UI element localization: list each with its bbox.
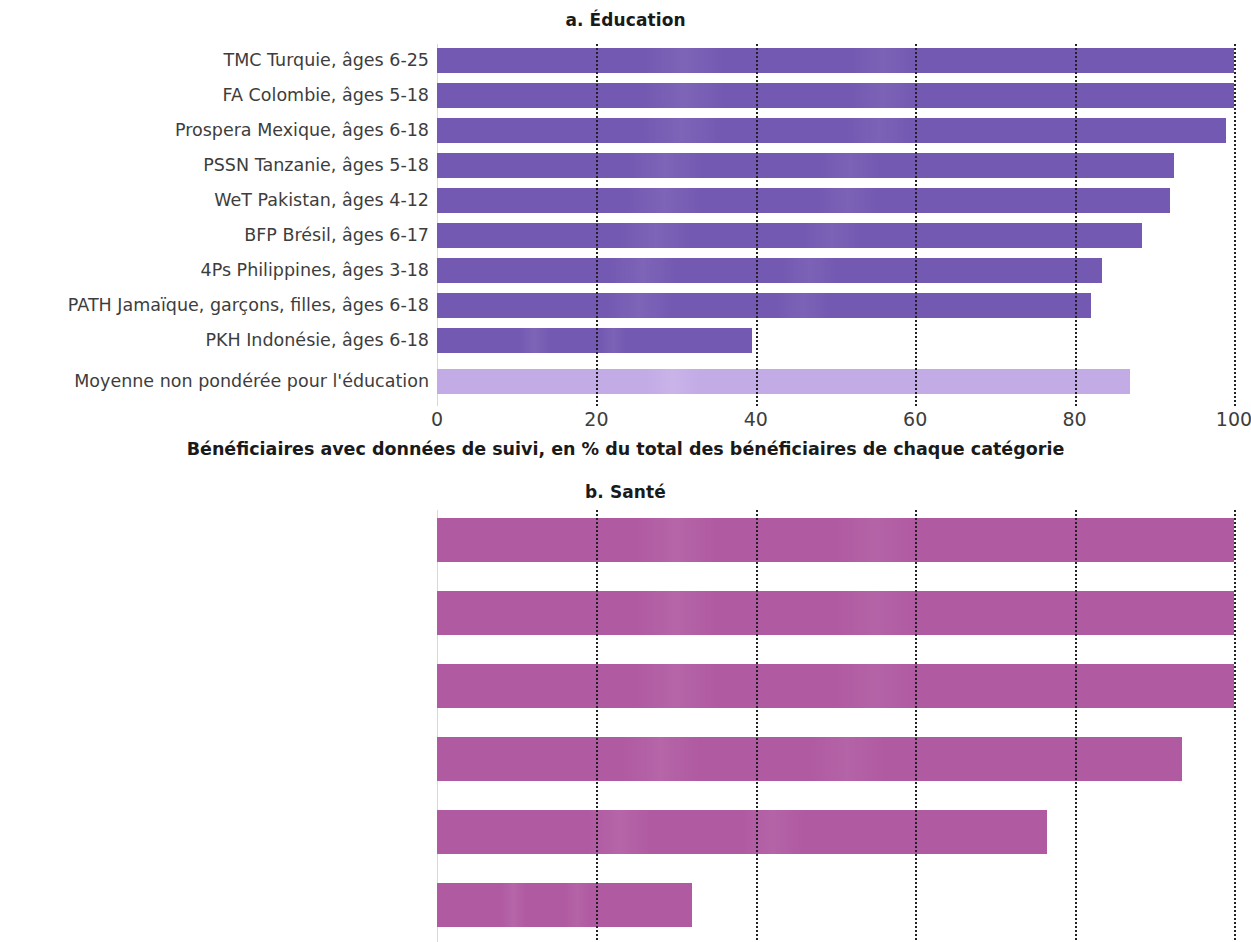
x-tick-label-40: 40 bbox=[721, 410, 791, 429]
bar-row bbox=[437, 328, 1234, 353]
category-label: 4Ps Philippines, âges 3-18 bbox=[0, 262, 429, 280]
bar-row bbox=[437, 258, 1234, 283]
x-tick-label-100: 100 bbox=[1199, 410, 1251, 429]
category-label: TMC Turquie, âges 6-25 bbox=[0, 52, 429, 70]
bar-row bbox=[437, 118, 1234, 143]
category-label: WeT Pakistan, âges 4-12 bbox=[0, 192, 429, 210]
category-label: PKH Indonésie, âges 6-18 bbox=[0, 332, 429, 350]
bar-row bbox=[437, 153, 1234, 178]
bar-6 bbox=[437, 258, 1102, 283]
bar-row bbox=[437, 369, 1234, 394]
bar-1 bbox=[437, 83, 1234, 108]
category-label: Prospera Mexique, âges 6-18 bbox=[0, 122, 429, 140]
figure-beneficiaries-monitoring-data: a. Éducation TMC Turquie, âges 6-25FA Co… bbox=[0, 0, 1251, 942]
bar-4 bbox=[437, 188, 1170, 213]
gridline-20 bbox=[596, 44, 598, 406]
bar-2 bbox=[437, 664, 1234, 708]
bar-1 bbox=[437, 591, 1234, 635]
bar-row bbox=[437, 83, 1234, 108]
gridline-80 bbox=[1075, 510, 1077, 942]
x-tick-label-20: 20 bbox=[561, 410, 631, 429]
category-label: Moyenne non pondérée pour l'éducation bbox=[0, 373, 429, 391]
bar-3 bbox=[437, 737, 1182, 781]
gridline-80 bbox=[1075, 44, 1077, 406]
bar-4 bbox=[437, 810, 1047, 854]
bar-row bbox=[437, 188, 1234, 213]
bar-7 bbox=[437, 293, 1091, 318]
gridline-60 bbox=[915, 510, 917, 942]
bar-average bbox=[437, 369, 1130, 394]
bar-row bbox=[437, 223, 1234, 248]
bar-3 bbox=[437, 153, 1174, 178]
bar-row bbox=[437, 293, 1234, 318]
bar-row bbox=[437, 518, 1234, 562]
bar-0 bbox=[437, 48, 1234, 73]
panel-title-education: a. Éducation bbox=[0, 10, 1251, 30]
bar-2 bbox=[437, 118, 1226, 143]
chart-panel-sante: b. Santé TMC TurquiePATH Jamaïque, femme… bbox=[0, 472, 1251, 942]
category-label: BFP Brésil, âges 6-17 bbox=[0, 227, 429, 245]
bar-row bbox=[437, 883, 1234, 927]
category-label: PATH Jamaïque, garçons, filles, âges 6-1… bbox=[0, 297, 429, 315]
bar-row bbox=[437, 591, 1234, 635]
gridline-60 bbox=[915, 44, 917, 406]
gridline-40 bbox=[756, 44, 758, 406]
gridline-40 bbox=[756, 510, 758, 942]
x-tick-label-60: 60 bbox=[880, 410, 950, 429]
category-label: FA Colombie, âges 5-18 bbox=[0, 87, 429, 105]
plot-area-sante bbox=[437, 510, 1234, 942]
x-axis-title-education: Bénéficiaires avec données de suivi, en … bbox=[0, 440, 1251, 459]
y-axis-line bbox=[437, 510, 438, 942]
bar-row bbox=[437, 48, 1234, 73]
gridline-20 bbox=[596, 510, 598, 942]
x-tick-label-0: 0 bbox=[402, 410, 472, 429]
panel-title-sante: b. Santé bbox=[0, 482, 1251, 502]
bar-8 bbox=[437, 328, 752, 353]
bar-row bbox=[437, 664, 1234, 708]
bar-5 bbox=[437, 223, 1142, 248]
category-label: PSSN Tanzanie, âges 5-18 bbox=[0, 157, 429, 175]
x-tick-label-80: 80 bbox=[1040, 410, 1110, 429]
bar-5 bbox=[437, 883, 692, 927]
bar-row bbox=[437, 810, 1234, 854]
bar-0 bbox=[437, 518, 1234, 562]
chart-panel-education: a. Éducation TMC Turquie, âges 6-25FA Co… bbox=[0, 0, 1251, 472]
plot-area-education bbox=[437, 44, 1234, 406]
gridline-100 bbox=[1234, 44, 1236, 406]
gridline-100 bbox=[1234, 510, 1236, 942]
bar-row bbox=[437, 737, 1234, 781]
